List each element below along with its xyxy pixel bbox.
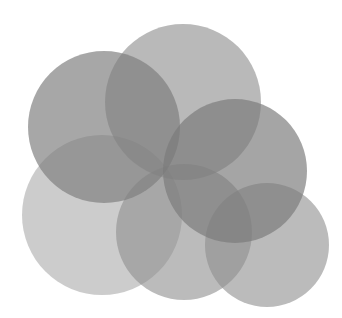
overlapping-circles-canvas <box>0 0 342 318</box>
circle-right-middle <box>163 99 307 243</box>
circle-top-left <box>28 51 180 203</box>
circle-group <box>22 24 329 307</box>
circles-graphic <box>0 0 342 318</box>
